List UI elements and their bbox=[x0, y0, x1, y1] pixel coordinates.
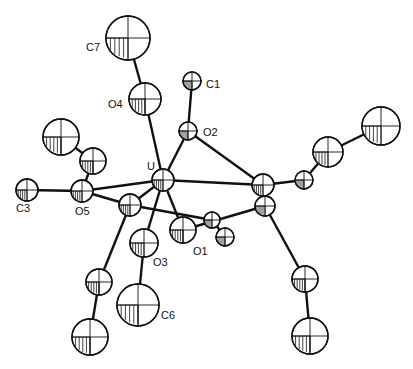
atoms-layer bbox=[16, 16, 400, 355]
atom-x2 bbox=[216, 228, 234, 246]
atom-label-c1: C1 bbox=[206, 78, 220, 90]
atom-c1 bbox=[183, 72, 201, 90]
atom-b2 bbox=[72, 319, 108, 355]
atom-label-c3: C3 bbox=[16, 202, 30, 214]
atom-o2 bbox=[179, 122, 197, 140]
atom-label-c6: C6 bbox=[161, 309, 175, 321]
atom-m1 bbox=[119, 194, 141, 216]
atom-label-u: U bbox=[147, 160, 155, 172]
atom-rc bbox=[362, 107, 400, 145]
atom-label-o2: O2 bbox=[203, 126, 218, 138]
bond-m1-x1 bbox=[130, 205, 212, 220]
atom-rb bbox=[313, 137, 343, 167]
atom-d1 bbox=[292, 266, 318, 292]
atom-u bbox=[152, 169, 174, 191]
atom-m2 bbox=[252, 174, 274, 196]
atom-l2 bbox=[80, 148, 106, 174]
atom-c6 bbox=[117, 284, 159, 326]
atom-ra bbox=[295, 171, 313, 189]
atom-c7 bbox=[106, 16, 150, 60]
atom-c3 bbox=[16, 179, 38, 201]
atom-l1 bbox=[43, 119, 79, 155]
molecular-structure-diagram: C7O4C1O2UC3O5O1O3C6 bbox=[0, 0, 413, 369]
atom-b1 bbox=[86, 269, 112, 295]
atom-d2 bbox=[292, 318, 328, 354]
atom-label-o3: O3 bbox=[153, 256, 168, 268]
atom-o1 bbox=[170, 217, 196, 243]
atom-m2b bbox=[255, 196, 275, 216]
atom-label-o4: O4 bbox=[108, 98, 123, 110]
atom-o5 bbox=[71, 180, 93, 202]
atom-label-o5: O5 bbox=[75, 205, 90, 217]
bond-o2-m2 bbox=[188, 131, 263, 185]
atom-o4 bbox=[129, 83, 161, 115]
bond-u-m2 bbox=[163, 180, 263, 185]
atom-o3 bbox=[130, 229, 158, 257]
atom-x1 bbox=[204, 212, 220, 228]
atom-label-o1: O1 bbox=[193, 245, 208, 257]
atom-label-c7: C7 bbox=[86, 41, 100, 53]
